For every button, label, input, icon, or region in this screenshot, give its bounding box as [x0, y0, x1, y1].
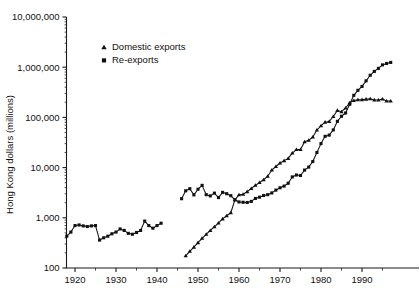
- data-point-square: [250, 200, 253, 203]
- data-point-triangle: [311, 135, 315, 139]
- data-point-square: [184, 189, 187, 192]
- y-tick-label: 10,000,000: [12, 11, 60, 22]
- data-point-square: [356, 89, 359, 92]
- data-point-square: [332, 128, 335, 131]
- legend-marker-triangle: [101, 45, 106, 49]
- data-point-square: [340, 115, 343, 118]
- data-point-square: [139, 229, 142, 232]
- data-point-square: [299, 174, 302, 177]
- data-point-square: [237, 200, 240, 203]
- series-line: [186, 99, 391, 256]
- data-point-square: [123, 229, 126, 232]
- data-point-square: [254, 197, 257, 200]
- data-point-square: [69, 231, 72, 234]
- data-point-triangle: [229, 211, 233, 215]
- data-point-square: [369, 74, 372, 77]
- series-line: [67, 221, 161, 240]
- data-point-square: [160, 222, 163, 225]
- data-point-square: [217, 196, 220, 199]
- data-point-square: [131, 233, 134, 236]
- data-point-square: [274, 189, 277, 192]
- data-point-square: [205, 193, 208, 196]
- data-point-square: [221, 191, 224, 194]
- data-point-square: [278, 186, 281, 189]
- data-point-square: [385, 62, 388, 65]
- x-axis-ticks: 19201930194019501960197019801990: [64, 268, 382, 285]
- data-point-square: [155, 224, 158, 227]
- y-tick-label: 10,000: [30, 162, 59, 173]
- data-point-square: [307, 166, 310, 169]
- data-point-square: [287, 182, 290, 185]
- data-point-square: [135, 231, 138, 234]
- data-point-square: [209, 194, 212, 197]
- data-point-square: [266, 193, 269, 196]
- data-point-square: [262, 194, 265, 197]
- chart-container: 10,000,0001,000,000100,00010,0001,000100…: [0, 0, 420, 295]
- data-point-square: [119, 227, 122, 230]
- data-point-square: [283, 185, 286, 188]
- x-tick-label: 1930: [105, 274, 126, 285]
- data-point-square: [324, 135, 327, 138]
- x-tick-label: 1970: [269, 274, 290, 285]
- data-point-square: [225, 192, 228, 195]
- x-tick-label: 1960: [228, 274, 249, 285]
- y-axis-title: Hong Kong dollars (millions): [4, 95, 15, 214]
- legend-marker-square: [102, 58, 106, 62]
- y-tick-label: 1,000: [36, 212, 60, 223]
- data-point-square: [365, 79, 368, 82]
- data-point-square: [65, 235, 68, 238]
- y-tick-label: 100: [44, 262, 60, 273]
- data-point-square: [381, 63, 384, 66]
- x-tick-label: 1940: [146, 274, 167, 285]
- data-point-square: [328, 134, 331, 137]
- data-point-square: [258, 196, 261, 199]
- data-point-square: [147, 224, 150, 227]
- data-point-square: [98, 239, 101, 242]
- data-point-square: [377, 67, 380, 70]
- data-point-triangle: [335, 108, 339, 112]
- data-point-square: [143, 220, 146, 223]
- data-point-square: [196, 188, 199, 191]
- data-point-square: [151, 227, 154, 230]
- series-line: [182, 62, 391, 202]
- data-point-square: [110, 232, 113, 235]
- data-point-square: [106, 235, 109, 238]
- data-point-square: [192, 193, 195, 196]
- data-point-square: [336, 120, 339, 123]
- y-tick-label: 1,000,000: [17, 62, 59, 73]
- legend-label: Domestic exports: [112, 41, 186, 52]
- data-point-square: [201, 184, 204, 187]
- data-point-square: [180, 197, 183, 200]
- data-point-square: [73, 224, 76, 227]
- data-point-square: [344, 111, 347, 114]
- data-point-square: [188, 187, 191, 190]
- data-point-square: [82, 224, 85, 227]
- data-point-square: [102, 236, 105, 239]
- y-axis-ticks: 10,000,0001,000,000100,00010,0001,000100: [12, 11, 67, 273]
- x-tick-label: 1920: [64, 274, 85, 285]
- data-point-square: [319, 142, 322, 145]
- data-point-square: [94, 224, 97, 227]
- legend-label: Re-exports: [112, 54, 159, 65]
- data-point-square: [127, 232, 130, 235]
- data-point-square: [389, 61, 392, 64]
- x-tick-label: 1980: [310, 274, 331, 285]
- data-point-square: [373, 70, 376, 73]
- data-point-square: [242, 201, 245, 204]
- data-point-triangle: [380, 97, 384, 101]
- data-point-square: [90, 224, 93, 227]
- legend: Domestic exportsRe-exports: [101, 41, 185, 65]
- data-point-square: [311, 160, 314, 163]
- data-point-square: [86, 225, 89, 228]
- data-point-square: [303, 169, 306, 172]
- data-point-square: [295, 173, 298, 176]
- exports-log-line-chart: 10,000,0001,000,000100,00010,0001,000100…: [0, 0, 420, 295]
- x-tick-label: 1950: [187, 274, 208, 285]
- y-tick-label: 100,000: [25, 112, 59, 123]
- data-point-square: [229, 194, 232, 197]
- data-point-square: [315, 151, 318, 154]
- data-point-square: [348, 103, 351, 106]
- series-domestic-exports: [184, 97, 393, 258]
- data-point-square: [291, 175, 294, 178]
- data-point-square: [233, 198, 236, 201]
